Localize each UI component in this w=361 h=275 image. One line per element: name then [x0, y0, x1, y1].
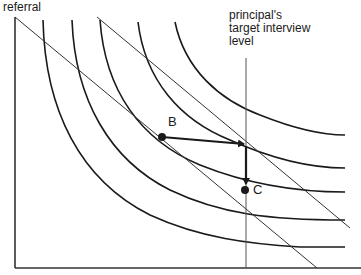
budget-line-inner	[15, 17, 317, 268]
budget-line-outer	[97, 17, 350, 228]
point-c	[241, 186, 249, 194]
target-line-label-line-3: level	[229, 35, 359, 48]
indifference-curves	[43, 20, 345, 247]
y-axis-label: referral	[3, 1, 41, 14]
axes	[15, 17, 361, 268]
point-c-label: C	[253, 183, 262, 196]
budget-lines	[15, 17, 350, 268]
indifference-curve-1	[43, 20, 345, 247]
target-line-label: principal's target interview level	[229, 9, 359, 48]
point-b	[158, 133, 166, 141]
point-b-label: B	[168, 115, 177, 128]
